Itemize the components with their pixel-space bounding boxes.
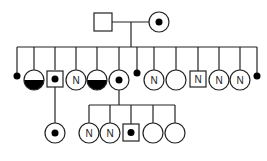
normal-label: N [150,75,157,86]
female-normal-symbol-III-2: N [79,123,99,143]
female-normal-symbol-II-4: N [66,70,86,90]
deceased-dot-II-7 [134,70,141,77]
female-normal-symbol-II-8: N [144,70,164,90]
normal-label: N [215,75,222,86]
male-normal-symbol-II-10: N [190,71,206,87]
normal-label: N [85,128,92,139]
pedigree-chart: N N N N N N N [0,0,267,161]
female-symbol-III-5 [143,123,163,143]
normal-label: N [194,74,201,85]
deceased-dot-II-13 [254,73,261,80]
deceased-dot-II-1 [14,73,21,80]
male-symbol-I-1 [94,13,112,31]
female-normal-symbol-III-3: N [100,123,120,143]
half-filled-female-II-5 [87,70,107,90]
half-filled-female-II-2 [24,70,44,90]
pedigree-svg: N N N N N N N [0,0,267,161]
female-normal-symbol-II-11: N [209,70,229,90]
normal-label: N [106,128,113,139]
male-carrier-symbol-II-3 [47,71,63,87]
female-symbol-III-6 [165,123,185,143]
female-symbol-II-9 [166,70,186,90]
female-carrier-symbol-II-6 [109,70,129,90]
female-carrier-symbol-I-2 [149,12,169,32]
normal-label: N [72,75,79,86]
normal-label: N [236,75,243,86]
female-carrier-symbol-III-1 [45,123,65,143]
female-normal-symbol-II-12: N [230,70,250,90]
male-carrier-symbol-III-4 [123,124,139,141]
